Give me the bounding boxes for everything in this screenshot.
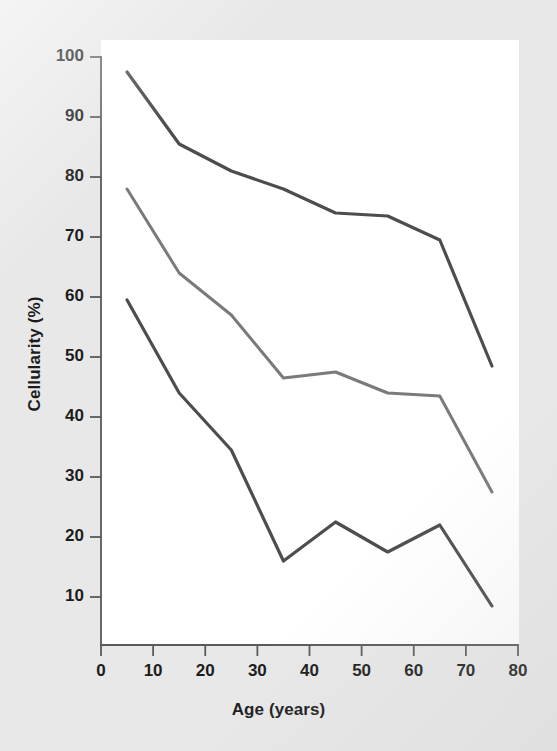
x-axis-tick-label: 70 [446, 661, 486, 681]
x-axis-tick-label: 40 [290, 661, 330, 681]
y-axis-tick-label: 100 [38, 46, 84, 66]
x-axis-tick-label: 80 [498, 661, 538, 681]
y-axis-tick-label: 20 [38, 526, 84, 546]
y-axis-tick-label: 10 [38, 586, 84, 606]
x-axis-tick-label: 10 [133, 661, 173, 681]
x-axis-tick-label: 50 [342, 661, 382, 681]
y-axis-tick-label: 80 [38, 166, 84, 186]
x-axis-ticks [101, 645, 518, 656]
y-axis-tick-label: 70 [38, 226, 84, 246]
x-axis-tick-label: 0 [81, 661, 121, 681]
y-axis-ticks [90, 57, 101, 597]
x-axis-tick-label: 30 [237, 661, 277, 681]
x-axis-tick-label: 20 [185, 661, 225, 681]
y-axis-title: Cellularity (%) [25, 244, 45, 464]
y-axis-tick-label: 30 [38, 466, 84, 486]
x-axis-title: Age (years) [0, 700, 557, 720]
plot-panel [101, 40, 519, 646]
figure-container: 102030405060708090100 01020304050607080 … [0, 0, 557, 751]
y-axis-tick-label: 90 [38, 106, 84, 126]
x-axis-tick-label: 60 [394, 661, 434, 681]
